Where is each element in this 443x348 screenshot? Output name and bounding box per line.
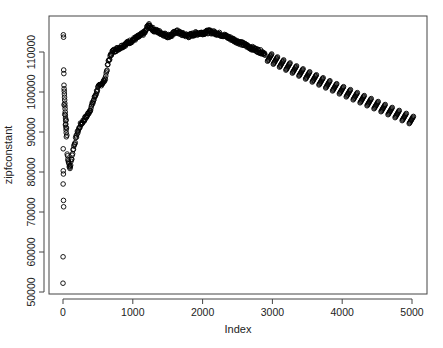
y-tick-label: 50000 [25, 277, 37, 306]
y-tick-label: 100000 [25, 74, 37, 109]
data-points [61, 22, 416, 286]
x-axis-title: Index [225, 323, 252, 335]
x-tick-label: 4000 [331, 306, 355, 318]
y-tick-label: 70000 [25, 197, 37, 226]
y-axis-title: zipfconstant [2, 126, 14, 185]
chart: 010002000300040005000 500006000070000800… [0, 0, 443, 348]
x-tick-label: 3000 [261, 306, 285, 318]
y-tick-label: 80000 [25, 157, 37, 186]
y-tick-label: 60000 [25, 237, 37, 266]
y-tick-label: 110000 [25, 35, 37, 69]
x-tick-label: 1000 [121, 306, 145, 318]
x-tick-label: 5000 [400, 306, 424, 318]
plot-frame [49, 16, 427, 294]
x-tick-label: 2000 [191, 306, 215, 318]
x-axis: 010002000300040005000 [60, 299, 424, 318]
x-tick-label: 0 [60, 306, 66, 318]
y-axis: 5000060000700008000090000100000110000 [25, 35, 44, 307]
y-tick-label: 90000 [25, 117, 37, 146]
